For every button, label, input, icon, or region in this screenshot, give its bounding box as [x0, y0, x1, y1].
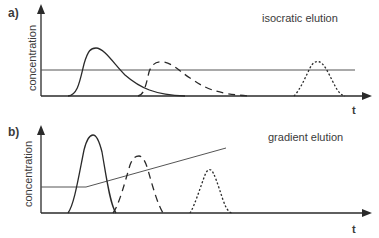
elution-diagram: a) isocratic elution concentration t b) … — [0, 0, 379, 238]
panel-a-peak-dashed — [138, 62, 250, 96]
panel-b-peak-dashed — [113, 156, 163, 213]
panel-b-solvent-gradient — [41, 148, 226, 187]
panel-b-label: b) — [8, 125, 19, 139]
panel-b: b) gradient elution concentration t — [8, 125, 372, 235]
panel-b-peak-solid — [68, 135, 116, 213]
y-arrow-icon — [37, 4, 45, 14]
panel-a-title: isocratic elution — [262, 12, 338, 24]
panel-b-title: gradient elution — [268, 131, 343, 143]
panel-a-peak-dotted — [294, 62, 345, 96]
panel-b-ylabel: concentration — [22, 141, 34, 207]
x-arrow-icon — [362, 209, 372, 217]
panel-b-peak-dotted — [190, 170, 232, 213]
x-arrow-icon — [362, 92, 372, 100]
y-arrow-icon — [37, 125, 45, 135]
panel-a: a) isocratic elution concentration t — [8, 4, 372, 116]
panel-b-xlabel: t — [352, 223, 356, 235]
panel-a-xlabel: t — [352, 104, 356, 116]
panel-a-ylabel: concentration — [26, 25, 38, 91]
panel-a-label: a) — [8, 6, 19, 20]
panel-a-peak-solid — [68, 48, 185, 96]
